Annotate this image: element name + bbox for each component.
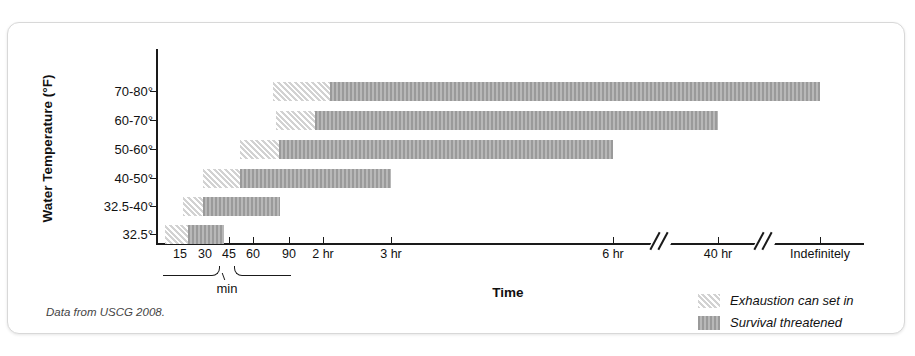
bar-segment bbox=[276, 111, 315, 130]
source-note: Data from USCG 2008. bbox=[46, 306, 165, 318]
bar-segment bbox=[240, 140, 279, 159]
brace-arm-right bbox=[234, 266, 291, 276]
min-brace bbox=[163, 266, 291, 278]
bar-segment bbox=[183, 197, 203, 216]
bar-segment bbox=[188, 225, 224, 244]
bar-row bbox=[8, 111, 906, 130]
plot-area: 70-80°60-70°50-60°40-50°32.5-40°32.5° 15… bbox=[8, 23, 906, 335]
legend-swatch bbox=[698, 294, 720, 308]
x-tick-label-2: 45 bbox=[222, 247, 236, 261]
bar-segment bbox=[165, 225, 188, 244]
brace-arm-left bbox=[163, 266, 220, 276]
x-tick-label-5: 2 hr bbox=[312, 247, 334, 261]
bar-row bbox=[8, 169, 906, 188]
bar-segment bbox=[315, 111, 718, 130]
legend: Exhaustion can set inSurvival threatened bbox=[698, 291, 898, 335]
legend-item-0: Exhaustion can set in bbox=[698, 291, 898, 311]
bar-segment bbox=[330, 82, 820, 101]
x-tick-label-6: 3 hr bbox=[380, 247, 402, 261]
bar-segment bbox=[203, 169, 240, 188]
x-tick-label-4: 90 bbox=[282, 247, 296, 261]
bar-segment bbox=[279, 140, 613, 159]
x-tick-label-9: Indefinitely bbox=[790, 247, 850, 261]
legend-swatch bbox=[698, 316, 720, 330]
legend-item-1: Survival threatened bbox=[698, 313, 898, 333]
bar-row bbox=[8, 225, 906, 244]
bar-segment bbox=[240, 169, 391, 188]
bar-row bbox=[8, 140, 906, 159]
x-tick-label-8: 40 hr bbox=[704, 247, 733, 261]
chart-card: Water Temperature (°F) 70-80°60-70°50-60… bbox=[7, 22, 905, 334]
x-tick-label-3: 60 bbox=[246, 247, 260, 261]
bar-row bbox=[8, 197, 906, 216]
x-tick-label-0: 15 bbox=[173, 247, 187, 261]
bar-row bbox=[8, 82, 906, 101]
bar-segment bbox=[273, 82, 330, 101]
x-axis-title: Time bbox=[408, 285, 608, 300]
legend-label: Survival threatened bbox=[730, 313, 842, 333]
brace-tip bbox=[222, 273, 234, 280]
legend-label: Exhaustion can set in bbox=[730, 291, 854, 311]
bar-segment bbox=[203, 197, 280, 216]
x-tick-label-7: 6 hr bbox=[602, 247, 624, 261]
min-brace-label: min bbox=[163, 281, 291, 296]
x-tick-label-1: 30 bbox=[198, 247, 212, 261]
